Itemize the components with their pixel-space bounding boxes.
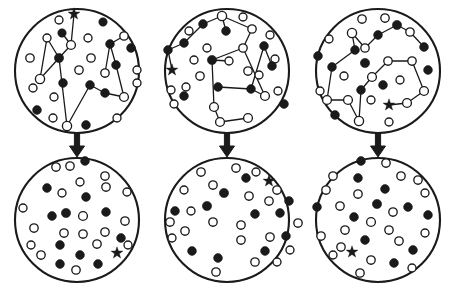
open-node-bottom-middle-10 <box>265 197 273 205</box>
filled-node-bottom-left-5 <box>43 184 52 193</box>
open-node-bottom-left-9 <box>123 188 131 196</box>
filled-node-bottom-left-14 <box>102 208 111 217</box>
filled-node-top-middle-13 <box>207 55 216 64</box>
open-node-bottom-right-1 <box>382 159 390 167</box>
open-node-top-right-21 <box>316 87 324 95</box>
filled-node-top-middle-19 <box>268 62 277 71</box>
filled-node-bottom-left-30 <box>94 260 103 269</box>
panel-bottom-middle <box>165 158 302 282</box>
filled-node-top-left-20 <box>86 81 95 90</box>
open-node-top-right-25 <box>367 96 375 104</box>
open-node-bottom-right-28 <box>367 256 375 264</box>
open-node-top-right-5 <box>406 28 414 36</box>
open-node-bottom-right-27 <box>329 251 337 259</box>
open-node-top-left-11 <box>87 54 95 62</box>
arrow-middle-head <box>220 146 235 157</box>
open-node-bottom-right-24 <box>337 243 345 251</box>
open-node-top-middle-6 <box>266 31 274 39</box>
filled-node-bottom-left-22 <box>56 241 65 250</box>
open-node-top-left-22 <box>50 93 58 101</box>
filled-node-bottom-middle-14 <box>202 201 211 210</box>
open-node-bottom-right-20 <box>317 232 325 240</box>
open-node-top-right-6 <box>325 35 333 43</box>
open-node-top-left-18 <box>29 84 37 92</box>
open-node-bottom-middle-24 <box>168 234 176 242</box>
open-node-bottom-left-4 <box>76 178 84 186</box>
filled-node-top-left-13 <box>112 61 121 70</box>
open-node-bottom-middle-2 <box>252 168 260 176</box>
open-node-bottom-left-3 <box>101 172 109 180</box>
filled-node-top-right-13 <box>360 58 369 67</box>
filled-node-bottom-right-13 <box>404 203 413 212</box>
filled-node-top-middle-7 <box>180 39 189 48</box>
open-node-bottom-middle-32 <box>212 268 220 276</box>
open-node-top-left-15 <box>133 66 141 74</box>
open-node-bottom-middle-30 <box>251 258 259 266</box>
filled-node-bottom-right-7 <box>381 185 390 194</box>
filled-node-top-middle-26 <box>180 92 189 101</box>
filled-node-bottom-middle-11 <box>285 197 294 206</box>
open-node-bottom-middle-6 <box>180 186 188 194</box>
filled-node-bottom-middle-27 <box>214 254 223 263</box>
filled-node-top-right-16 <box>424 66 433 75</box>
open-node-bottom-left-21 <box>27 241 35 249</box>
panel-top-right <box>314 9 440 133</box>
open-node-top-right-1 <box>381 14 389 22</box>
arrow-middle <box>220 133 235 157</box>
filled-node-bottom-left-11 <box>48 212 57 221</box>
open-node-bottom-left-15 <box>121 217 129 225</box>
open-node-top-middle-9 <box>239 44 247 52</box>
arrow-middle-shaft <box>224 133 229 146</box>
filled-node-bottom-right-3 <box>354 174 363 183</box>
open-node-top-right-0 <box>358 15 366 23</box>
open-node-top-right-17 <box>368 73 377 82</box>
filled-node-top-right-14 <box>328 63 337 72</box>
open-node-top-right-7 <box>361 44 369 52</box>
open-node-bottom-middle-20 <box>294 219 302 227</box>
filled-node-top-middle-24 <box>247 85 256 94</box>
arrows-layer <box>70 133 386 157</box>
filled-node-bottom-middle-28 <box>261 247 270 256</box>
filled-node-top-middle-30 <box>280 100 289 109</box>
open-node-top-left-17 <box>35 74 44 83</box>
open-node-bottom-left-23 <box>93 240 101 248</box>
open-node-bottom-left-7 <box>58 189 66 197</box>
filled-node-top-left-2 <box>99 18 107 26</box>
filled-node-bottom-left-8 <box>82 193 91 202</box>
open-node-bottom-left-6 <box>102 183 110 191</box>
filled-node-top-left-8 <box>106 40 115 49</box>
open-node-bottom-right-31 <box>408 264 416 272</box>
open-node-bottom-left-1 <box>52 163 60 171</box>
open-node-bottom-middle-1 <box>197 168 205 176</box>
open-node-top-middle-1 <box>239 13 247 21</box>
filled-node-bottom-right-10 <box>372 199 381 208</box>
open-node-bottom-right-17 <box>367 218 376 227</box>
filled-node-top-left-25 <box>33 106 42 115</box>
open-node-bottom-left-17 <box>60 229 68 237</box>
open-node-bottom-left-10 <box>19 204 27 212</box>
filled-node-bottom-left-20 <box>117 234 126 243</box>
open-node-top-middle-27 <box>261 92 270 101</box>
open-node-bottom-middle-23 <box>266 233 274 241</box>
filled-node-top-right-9 <box>351 46 360 55</box>
arrow-left <box>70 133 85 157</box>
filled-node-top-right-2 <box>392 20 401 29</box>
open-node-top-middle-8 <box>203 44 211 52</box>
open-node-bottom-right-9 <box>421 189 429 197</box>
open-node-top-right-11 <box>384 57 392 65</box>
filled-node-top-middle-11 <box>164 46 173 55</box>
open-node-top-right-30 <box>385 118 393 126</box>
open-node-top-left-29 <box>62 121 71 130</box>
open-node-bottom-right-11 <box>336 202 344 210</box>
open-node-bottom-middle-31 <box>273 258 281 266</box>
open-node-bottom-left-2 <box>66 162 74 170</box>
filled-node-top-right-4 <box>374 31 383 40</box>
open-node-top-left-24 <box>120 93 129 102</box>
open-node-top-middle-31 <box>216 118 225 127</box>
open-node-top-right-29 <box>354 116 363 125</box>
open-node-bottom-middle-17 <box>166 218 174 226</box>
open-node-top-right-27 <box>403 99 412 108</box>
open-node-bottom-right-30 <box>356 269 364 277</box>
open-node-top-right-3 <box>347 28 356 37</box>
open-node-bottom-middle-13 <box>187 207 195 215</box>
